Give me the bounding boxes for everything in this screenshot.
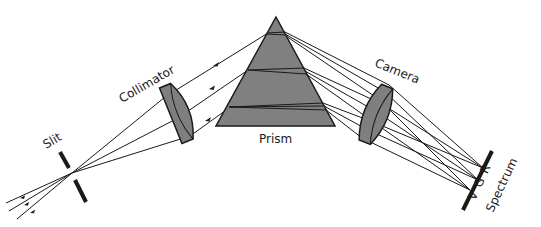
slit-label: Slit <box>41 130 65 152</box>
arrow-icon <box>30 210 35 214</box>
arrow-icon <box>213 62 219 67</box>
arrow-icon <box>209 85 215 90</box>
arrow-icon <box>205 117 211 122</box>
camera-label: Camera <box>373 56 422 87</box>
collimator-lens <box>159 81 199 144</box>
spectrum-label: Spectrum <box>483 156 520 215</box>
spectrograph-diagram: Slit Collimator Prism Camera V G R Spect… <box>0 0 541 227</box>
camera-lens <box>354 82 399 147</box>
prism-label: Prism <box>259 132 292 146</box>
incoming-rays <box>6 173 72 219</box>
arrow-icon <box>24 202 29 206</box>
prism <box>216 17 335 126</box>
